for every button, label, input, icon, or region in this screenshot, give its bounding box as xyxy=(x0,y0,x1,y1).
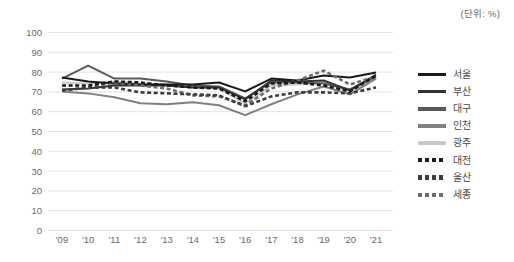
legend-item[interactable]: 부산 xyxy=(418,83,510,100)
x-axis-tick-label: '14 xyxy=(187,234,199,245)
gridlines xyxy=(48,33,393,231)
legend-item-label: 인천 xyxy=(453,121,471,131)
y-axis-tick-label: 20 xyxy=(31,185,42,196)
y-axis-tick-label: 50 xyxy=(31,126,42,137)
legend-item[interactable]: 광주 xyxy=(418,135,510,152)
legend-line-icon xyxy=(418,121,446,132)
legend-item[interactable]: 세종 xyxy=(418,186,510,203)
x-axis-tick-label: '18 xyxy=(291,234,303,245)
x-axis-tick-label: '21 xyxy=(370,234,382,245)
legend-line-icon xyxy=(418,138,446,149)
x-axis-tick-label: '16 xyxy=(239,234,251,245)
y-axis-tick-label: 100 xyxy=(26,27,42,38)
x-axis-tick-label: '20 xyxy=(344,234,356,245)
x-axis-tick-label: '19 xyxy=(317,234,329,245)
legend-line-icon xyxy=(418,69,446,80)
y-axis-tick-label: 60 xyxy=(31,106,42,117)
legend-item[interactable]: 대전 xyxy=(418,152,510,169)
legend-dashed-line-icon xyxy=(418,155,446,166)
y-axis-tick-label: 70 xyxy=(31,86,42,97)
chart-legend: 서울부산대구인천광주대전울산세종 xyxy=(418,66,510,204)
x-axis-tick-label: '09 xyxy=(56,234,68,245)
x-axis-tick-label: '11 xyxy=(108,234,120,245)
legend-item[interactable]: 울산 xyxy=(418,169,510,186)
legend-item-label: 서울 xyxy=(453,70,471,80)
x-axis-tick-label: '12 xyxy=(134,234,146,245)
y-axis-tick-label: 0 xyxy=(37,225,42,236)
legend-line-icon xyxy=(418,86,446,97)
legend-item-label: 부산 xyxy=(453,87,471,97)
legend-item-label: 대전 xyxy=(453,156,471,166)
legend-item-label: 울산 xyxy=(453,173,471,183)
legend-dashed-line-icon xyxy=(418,189,446,200)
legend-item-label: 세종 xyxy=(453,190,471,200)
x-axis-tick-labels: '09'10'11'12'13'14'15'16'17'18'19'20'21 xyxy=(56,234,382,245)
legend-line-icon xyxy=(418,103,446,114)
legend-item[interactable]: 서울 xyxy=(418,66,510,83)
y-axis-tick-label: 10 xyxy=(31,205,42,216)
x-axis-tick-label: '10 xyxy=(82,234,94,245)
y-axis-tick-label: 40 xyxy=(31,146,42,157)
y-axis-tick-labels: 1009080706050403020100 xyxy=(26,27,42,236)
series-lines xyxy=(62,66,376,116)
x-axis-tick-label: '13 xyxy=(160,234,172,245)
legend-item-label: 광주 xyxy=(453,138,471,148)
chart-container: (단위: %) 1009080706050403020100 '09'10'11… xyxy=(0,0,514,262)
legend-item[interactable]: 인천 xyxy=(418,118,510,135)
y-axis-tick-label: 90 xyxy=(31,47,42,58)
y-axis-tick-label: 30 xyxy=(31,166,42,177)
x-axis-tick-label: '17 xyxy=(265,234,277,245)
legend-item-label: 대구 xyxy=(453,104,471,114)
x-axis-tick-label: '15 xyxy=(213,234,225,245)
legend-dashed-line-icon xyxy=(418,172,446,183)
y-axis-tick-label: 80 xyxy=(31,67,42,78)
legend-item[interactable]: 대구 xyxy=(418,100,510,117)
